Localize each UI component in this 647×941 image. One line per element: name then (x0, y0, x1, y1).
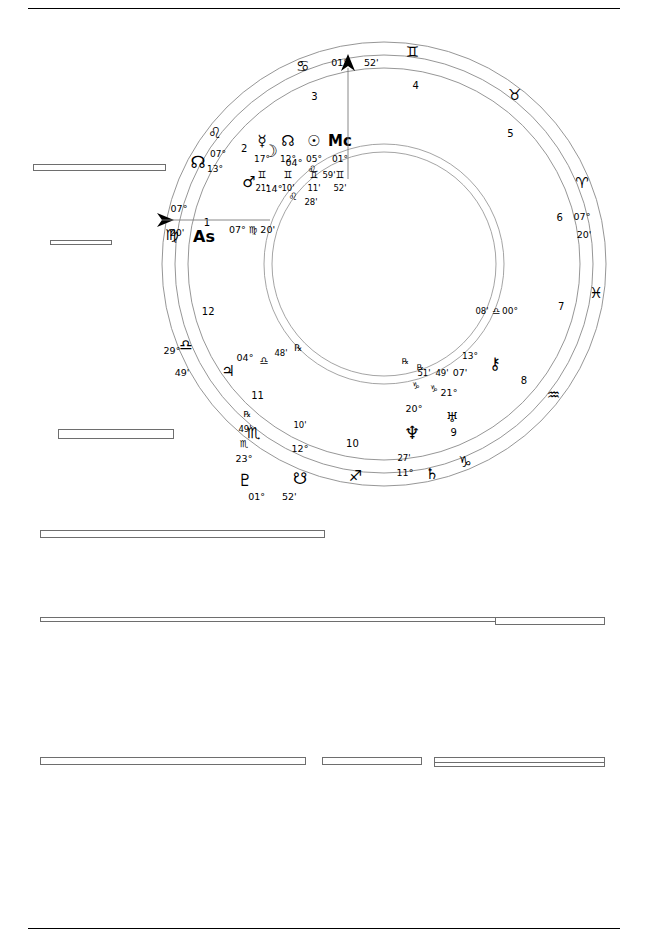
bottom-divider (28, 928, 620, 929)
aspects-title (323, 759, 421, 762)
houses-almuten-box (50, 240, 112, 245)
eclipses-title (41, 532, 324, 535)
astrology-chart-wheel[interactable]: ☿☊☉Mc17°12°05°01°♊♊♊♊21'10'11'52'01°52'♍… (152, 24, 616, 504)
wheel-angle-markers (152, 24, 616, 504)
moon-aspects-box (495, 617, 605, 625)
top-divider (28, 8, 620, 9)
day-hour-box (33, 164, 166, 171)
planetary-sect-footer (435, 762, 604, 764)
essential-dignities-title (41, 759, 305, 762)
moon-aspects-title (496, 619, 604, 622)
planetary-sect-box (434, 757, 605, 767)
eclipses-box (40, 530, 325, 538)
essential-dignities-box (40, 757, 306, 765)
aspects-box (322, 757, 422, 765)
